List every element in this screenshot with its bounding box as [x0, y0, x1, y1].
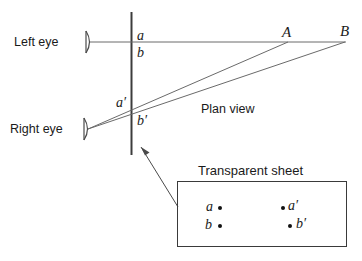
sheet-dot-b: [218, 224, 222, 228]
sheet-mark-a-prime-label: a′: [288, 199, 298, 213]
sheet-callout-arrow: [141, 147, 178, 207]
screen-mark-b-prime-label: b′: [137, 114, 147, 128]
screen-mark-a-prime-label: a′: [116, 96, 126, 110]
left-eye-label: Left eye: [14, 36, 58, 49]
sheet-mark-b-prime-label: b′: [296, 217, 306, 231]
sheet-mark-b-label: b: [205, 218, 212, 232]
right-eye-label: Right eye: [10, 123, 63, 136]
sheet-dot-b-prime: [288, 224, 292, 228]
plan-view-caption: Plan view: [201, 103, 255, 116]
target-point-a-label: A: [282, 25, 291, 40]
sheet-mark-a-label: a: [206, 200, 213, 214]
right-eye-sight-line-to-a: [88, 42, 288, 129]
sheet-dot-a-prime: [281, 206, 285, 210]
left-eye-icon: [86, 31, 90, 53]
right-eye-icon: [84, 118, 88, 140]
transparent-sheet-caption: Transparent sheet: [198, 164, 303, 177]
screen-mark-b-label: b: [137, 46, 144, 60]
transparent-sheet-box: a b a′ b′: [177, 181, 347, 247]
screen-mark-a-label: a: [137, 29, 144, 43]
sheet-dot-a: [218, 206, 222, 210]
target-point-b-label: B: [340, 24, 349, 39]
stereo-parallax-diagram: Left eye Right eye A B a b a′ b′ Plan vi…: [0, 0, 362, 261]
